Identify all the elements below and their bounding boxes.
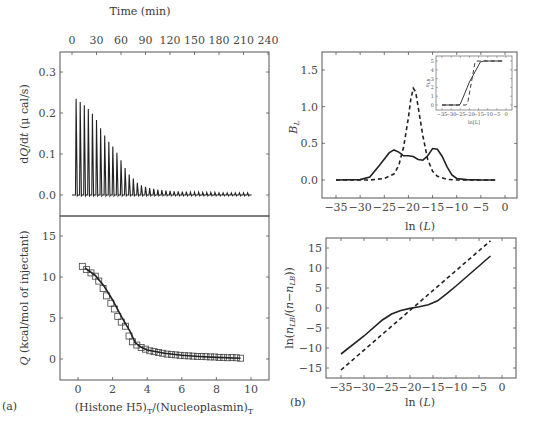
- isotherm-ylabel: Q (kcal/mol of injectant): [18, 230, 31, 365]
- inset-xlabel: ln[L]: [468, 119, 480, 125]
- svg-text:2: 2: [431, 84, 434, 90]
- hill-plot-panel: −35−30−25−20−15−10−50 −15−10−5051015 ln(…: [283, 238, 516, 409]
- svg-text:3: 3: [431, 76, 434, 82]
- figure-canvas: Time (min) 0306090120150180210240 0.00.1…: [0, 0, 538, 434]
- svg-text:5: 5: [431, 58, 434, 64]
- bl-ylabel: BL: [287, 120, 301, 134]
- svg-text:0: 0: [504, 111, 507, 117]
- isotherm-xlabel: (Histone H5)T/(Nucleoplasmin)T: [75, 401, 254, 416]
- panel-a-label: (a): [2, 400, 17, 413]
- x-tick-label: −20: [397, 201, 420, 214]
- x-tick-label: −15: [421, 201, 444, 214]
- y-tick-label: 0: [49, 353, 56, 366]
- binding-capacity-panel: −35−30−25−20−15−10−50 0.00.51.01.5 BL ln…: [287, 52, 517, 233]
- x-tick-label: 0: [499, 381, 506, 394]
- y-tick-label: 15: [308, 242, 322, 255]
- x-tick-label: 240: [258, 34, 279, 47]
- x-tick-label: −5: [471, 381, 487, 394]
- x-tick-label: 120: [160, 34, 181, 47]
- thermogram-peaks: [72, 99, 252, 196]
- x-tick-label: 0: [75, 383, 82, 396]
- y-tick-label: 0.1: [39, 148, 57, 161]
- x-tick-label: −30: [352, 381, 375, 394]
- x-tick-label: 180: [209, 34, 230, 47]
- svg-text:1: 1: [431, 93, 434, 99]
- bl-xlabel: ln (L): [405, 220, 435, 233]
- x-tick-label: 4: [144, 383, 151, 396]
- x-tick-label: 150: [184, 34, 205, 47]
- y-tick-label: −5: [306, 322, 322, 335]
- y-tick-label: 0.0: [301, 174, 319, 187]
- x-tick-label: 60: [114, 34, 128, 47]
- thermogram-panel: Time (min) 0306090120150180210240 0.00.1…: [18, 5, 279, 216]
- inset-ylabel: nLB: [424, 79, 431, 88]
- y-tick-label: 0: [315, 302, 322, 315]
- x-tick-label: −25: [375, 381, 398, 394]
- y-tick-label: 0.2: [39, 107, 57, 120]
- y-tick-label: 15: [42, 230, 56, 243]
- isotherm-y-ticks: 051015: [42, 230, 269, 366]
- x-tick-label: 10: [244, 383, 258, 396]
- x-tick-label: 30: [90, 34, 104, 47]
- thermogram-top-xlabel: Time (min): [110, 5, 171, 18]
- x-tick-label: 0: [69, 34, 76, 47]
- solid-curve: [85, 268, 241, 358]
- y-tick-label: −15: [299, 362, 322, 375]
- x-tick-label: 90: [139, 34, 153, 47]
- svg-text:4: 4: [431, 67, 434, 73]
- svg-text:0: 0: [431, 102, 434, 108]
- svg-text:−10: −10: [482, 111, 493, 117]
- isotherm-panel: 0246810 051015 Q (kcal/mol of injectant)…: [2, 216, 269, 416]
- y-tick-label: 5: [49, 312, 56, 325]
- x-tick-label: −20: [398, 381, 421, 394]
- x-tick-label: −30: [349, 201, 372, 214]
- hill-series: [341, 241, 491, 370]
- y-tick-label: 0.0: [39, 189, 57, 202]
- x-tick-label: −10: [445, 201, 468, 214]
- nlb-inset: −35−30−25−20−15−10−50012345ln[L]nLB: [424, 56, 512, 125]
- thermogram-y-ticks: 0.00.10.20.3: [39, 66, 270, 202]
- panel-b-label: (b): [290, 396, 306, 409]
- x-tick-label: 2: [109, 383, 116, 396]
- y-tick-label: 10: [308, 262, 322, 275]
- x-tick-label: −35: [324, 201, 347, 214]
- hill-x-ticks: −35−30−25−20−15−10−50: [329, 238, 505, 394]
- x-tick-label: 0: [502, 201, 509, 214]
- isotherm-series: [79, 263, 243, 361]
- dashed-curve: [341, 241, 491, 370]
- x-tick-label: −5: [473, 201, 489, 214]
- x-tick-label: 210: [233, 34, 254, 47]
- hill-xlabel: ln (L): [405, 396, 435, 409]
- x-tick-label: 6: [178, 383, 185, 396]
- x-tick-label: −10: [444, 381, 467, 394]
- y-tick-label: 1.0: [301, 101, 319, 114]
- y-tick-label: 1.5: [301, 64, 319, 77]
- x-tick-label: −35: [329, 381, 352, 394]
- svg-text:−5: −5: [493, 111, 500, 117]
- thermogram-ylabel: dQ/dt (μ cal/s): [18, 84, 31, 164]
- y-tick-label: 0.3: [39, 66, 57, 79]
- hill-ylabel: ln(nLB/(n−nLB)): [283, 267, 297, 349]
- solid-curve: [336, 149, 495, 181]
- y-tick-label: 5: [315, 282, 322, 295]
- y-tick-label: −10: [299, 342, 322, 355]
- x-tick-label: −15: [421, 381, 444, 394]
- y-tick-label: 0.5: [301, 137, 319, 150]
- x-tick-label: −25: [373, 201, 396, 214]
- x-tick-label: 8: [213, 383, 220, 396]
- y-tick-label: 10: [42, 271, 56, 284]
